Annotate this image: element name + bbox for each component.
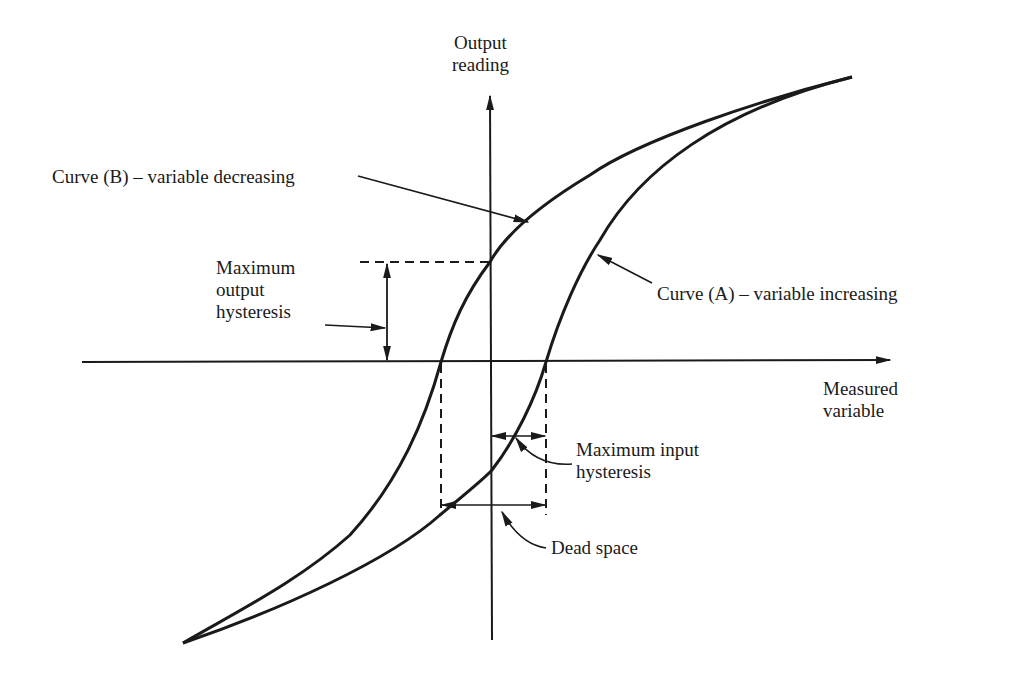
curve-b-label: Curve (B) – variable decreasing [52, 166, 295, 188]
curve-a-label: Curve (A) – variable increasing [657, 283, 898, 305]
max-input-hysteresis-label: Maximum input hysteresis [576, 439, 699, 483]
max-output-hysteresis-label: Maximum output hysteresis [216, 257, 295, 323]
output-hysteresis-pointer [325, 325, 385, 328]
curve-a-pointer [598, 255, 652, 283]
hysteresis-diagram [0, 0, 1014, 677]
curve-b-pointer [358, 176, 528, 222]
y-axis-label: Output reading [452, 32, 509, 76]
y-axis [490, 96, 492, 640]
input-hysteresis-pointer [516, 438, 572, 464]
dead-space-pointer [502, 512, 546, 548]
dead-space-label: Dead space [551, 537, 638, 559]
x-axis [82, 360, 890, 362]
x-axis-label: Measured variable [823, 378, 898, 422]
